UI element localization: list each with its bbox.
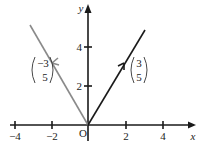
right-vector-x: 3 xyxy=(136,57,142,69)
left-vector-y: 5 xyxy=(42,71,48,83)
y-axis-arrow-icon xyxy=(85,4,92,13)
x-axis: −4 −2 2 4 x O xyxy=(9,121,196,142)
right-vector: 3 5 xyxy=(88,30,147,125)
left-vector-column: −3 5 xyxy=(32,57,53,83)
right-vector-column: 3 5 xyxy=(131,57,147,83)
left-vector: −3 5 xyxy=(30,25,88,125)
direction-arrow-icon xyxy=(52,58,59,65)
x-tick-label: −2 xyxy=(46,130,58,142)
x-axis-arrow-icon xyxy=(188,122,196,129)
x-tick-label: 4 xyxy=(160,130,166,142)
y-axis: 2 4 y xyxy=(77,2,93,141)
origin-label: O xyxy=(79,127,87,139)
y-tick-label: 4 xyxy=(77,41,83,53)
y-tick-label: 2 xyxy=(77,80,83,92)
vector-diagram: −4 −2 2 4 x O 2 4 y −3 5 3 5 xyxy=(0,0,202,142)
x-tick-label: −4 xyxy=(9,130,21,142)
x-axis-label: x xyxy=(190,130,196,142)
x-tick-label: 2 xyxy=(123,130,129,142)
y-axis-label: y xyxy=(78,2,84,14)
left-vector-x: −3 xyxy=(37,57,49,69)
right-vector-y: 5 xyxy=(136,71,142,83)
